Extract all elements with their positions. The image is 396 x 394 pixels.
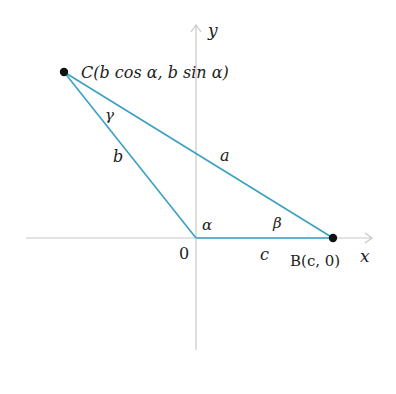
side-a [64,72,333,238]
side-b [64,72,196,238]
origin-label: 0 [179,244,189,263]
point-c-label: C(b cos α, b sin α) [81,63,229,82]
side-a-label: a [220,146,230,165]
side-b-label: b [113,147,123,166]
point-c [60,68,68,76]
x-axis-label: x [360,246,370,266]
point-c-label-text: C(b cos α, b sin α) [81,63,229,82]
point-b-label: B(c, 0) [290,252,340,270]
angle-gamma-label: γ [105,106,114,124]
angle-beta-label: β [272,214,282,232]
angle-alpha-label: α [202,216,212,234]
triangle-diagram: y x 0 C(b cos α, b sin α) B(c, 0) a b c … [0,0,396,394]
point-b-label-text: B(c, 0) [290,252,340,270]
y-axis-label: y [207,20,218,40]
side-c-label: c [260,245,269,264]
point-b [329,234,337,242]
